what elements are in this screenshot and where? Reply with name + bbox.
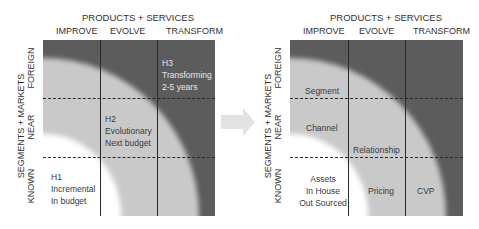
grid-line <box>348 40 349 216</box>
grid-line <box>157 40 158 216</box>
left-horizon-grid: H3 Transforming 2-5 years H2 Evolutionar… <box>43 40 215 216</box>
right-col-improve: IMPROVE <box>303 26 345 36</box>
segment-label: Segment <box>305 85 339 97</box>
grid-line <box>405 40 406 216</box>
grid-line <box>43 98 215 99</box>
left-col-transform: TRANSFORM <box>166 26 223 36</box>
grid-line <box>290 98 463 99</box>
h1-label: H1 Incremental In budget <box>51 171 95 207</box>
left-row-known: KNOWN <box>26 161 36 211</box>
right-business-model-grid: Segment Channel Relationship Assets In H… <box>290 40 463 216</box>
left-x-axis-title: PRODUCTS + SERVICES <box>82 12 194 23</box>
cvp-label: CVP <box>417 185 434 197</box>
right-col-transform: TRANSFORM <box>413 26 470 36</box>
grid-line <box>43 157 215 158</box>
grid-line <box>290 157 463 158</box>
right-col-evolve: EVOLVE <box>359 26 394 36</box>
h3-label: H3 Transforming 2-5 years <box>162 57 212 93</box>
grid-line <box>100 40 101 216</box>
left-row-foreign: FOREIGN <box>26 43 36 93</box>
pricing-label: Pricing <box>368 185 394 197</box>
channel-label: Channel <box>306 122 338 134</box>
assets-label: Assets In House Out Sourced <box>298 173 348 209</box>
right-y-axis-title: SEGMENTS + MARKETS <box>263 66 273 186</box>
left-col-improve: IMPROVE <box>56 26 98 36</box>
left-row-near: NEAR <box>26 102 36 152</box>
right-row-near: NEAR <box>273 102 283 152</box>
left-y-axis-title: SEGMENTS + MARKETS <box>16 66 26 186</box>
h2-label: H2 Evolutionary Next budget <box>105 113 152 149</box>
right-x-axis-title: PRODUCTS + SERVICES <box>330 12 442 23</box>
relationship-label: Relationship <box>353 144 400 156</box>
right-row-known: KNOWN <box>273 161 283 211</box>
left-col-evolve: EVOLVE <box>110 26 145 36</box>
right-arrow-icon <box>221 108 261 138</box>
right-row-foreign: FOREIGN <box>273 43 283 93</box>
